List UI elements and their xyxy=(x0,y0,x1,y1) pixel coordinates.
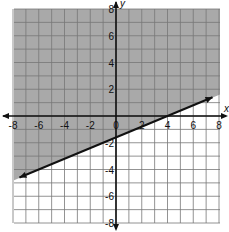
y-axis-label: y xyxy=(119,0,126,9)
shaded-region xyxy=(14,9,220,180)
x-tick-label: 6 xyxy=(190,120,196,131)
x-tick-label: 8 xyxy=(216,120,222,131)
x-tick-label: 0 xyxy=(113,120,119,131)
x-axis-label: x xyxy=(223,103,229,114)
x-tick-label: -2 xyxy=(86,120,95,131)
inequality-graph: yx-8-6-4-2024688642-2-4-6-8 xyxy=(0,0,229,232)
x-axis-arrow-left-icon xyxy=(2,113,9,119)
x-tick-label: -8 xyxy=(9,120,18,131)
x-tick-label: 4 xyxy=(165,120,171,131)
y-tick-label: 8 xyxy=(108,4,114,15)
y-tick-label: 6 xyxy=(108,31,114,42)
y-tick-label: 4 xyxy=(108,58,114,69)
y-tick-label: -6 xyxy=(105,191,114,202)
x-tick-label: -4 xyxy=(60,120,69,131)
y-tick-label: 2 xyxy=(108,84,114,95)
y-tick-label: -4 xyxy=(105,165,114,176)
y-tick-label: -8 xyxy=(105,218,114,229)
x-tick-label: -6 xyxy=(34,120,43,131)
